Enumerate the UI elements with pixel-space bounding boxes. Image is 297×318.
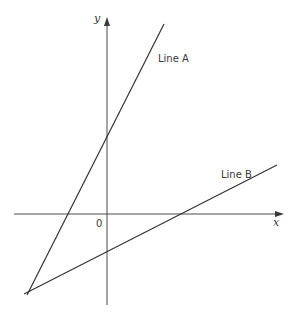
y-axis (104, 17, 110, 305)
line-a (27, 24, 164, 295)
line-b (24, 165, 277, 294)
y-axis-arrow-icon (104, 17, 110, 26)
y-axis-label: y (93, 12, 101, 25)
origin-label: 0 (96, 218, 102, 229)
line-a-label: Line A (158, 53, 189, 64)
x-axis-label: x (273, 216, 280, 229)
x-axis (14, 211, 284, 217)
coordinate-diagram: y x 0 Line A Line B (0, 0, 297, 318)
line-b-label: Line B (221, 169, 252, 180)
